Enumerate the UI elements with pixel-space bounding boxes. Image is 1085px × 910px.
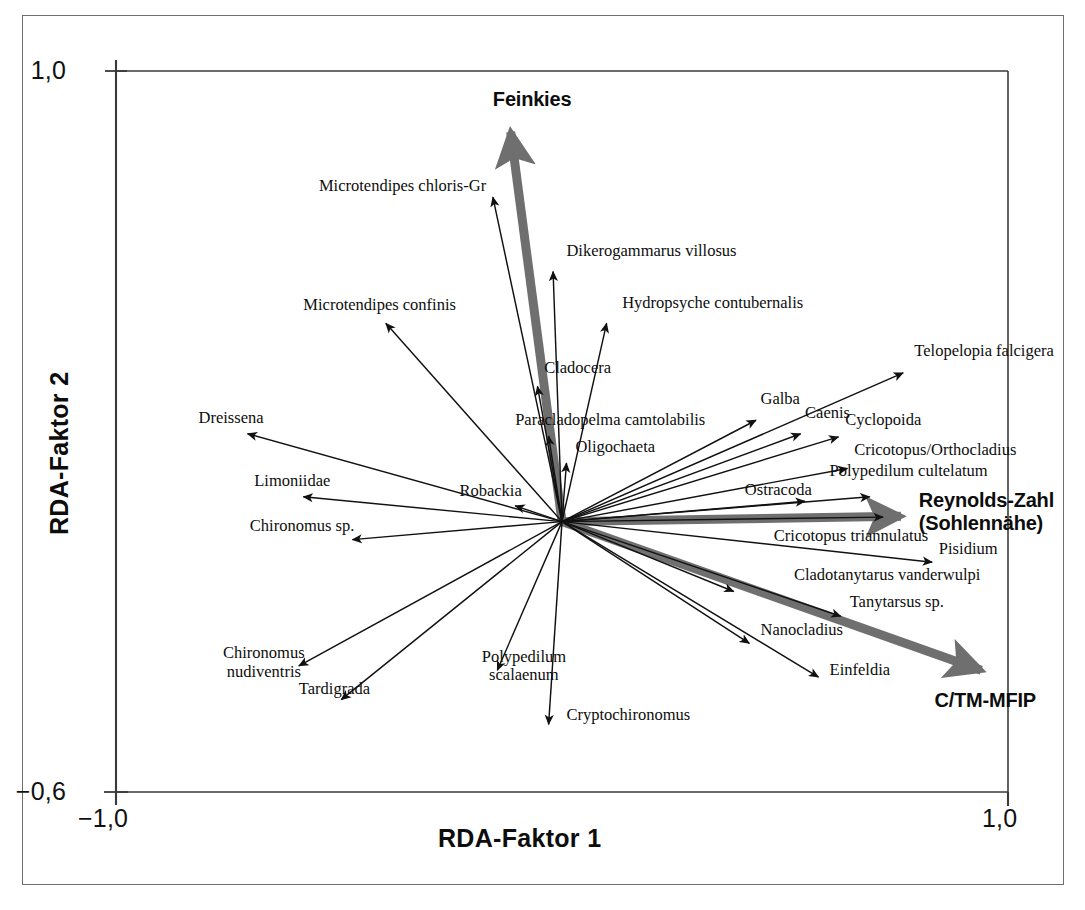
species-label-hydropsyche-contubernalis: Hydropsyche contubernalis (622, 294, 803, 312)
species-label-telopelopia-falcigera: Telopelopia falcigera (914, 342, 1053, 360)
species-vector-cladotanytarus-vanderwulpi (562, 522, 734, 592)
species-label-cricotopus-triannulatus: Cricotopus triannulatus (774, 527, 928, 545)
figure-page: 1,0 −0,6 −1,0 1,0 RDA-Faktor 1 RDA-Fakto… (0, 0, 1085, 910)
y-axis-title: RDA-Faktor 2 (45, 372, 74, 535)
species-label-microtendipes-chloris-gr: Microtendipes chloris-Gr (319, 177, 486, 195)
species-label-chironomus-sp: Chironomus sp. (250, 517, 355, 535)
env-label-c-tm-mfip: C/TM-MFIP (934, 689, 1036, 712)
species-label-chironomus-nudiventris: Chironomus nudiventris (223, 644, 305, 681)
species-label-robackia: Robackia (459, 482, 521, 500)
species-label-caenis: Caenis (805, 404, 850, 422)
species-label-nanocladius: Nanocladius (760, 621, 842, 639)
species-label-limoniidae: Limoniidae (254, 472, 330, 490)
species-label-polypedilum-scalaenum: Polypedilum scalaenum (482, 648, 566, 685)
species-label-tardigrada: Tardigrada (299, 680, 370, 698)
species-vector-chironomus-sp (352, 522, 562, 540)
species-vector-cryptochironomus (549, 522, 562, 725)
species-label-paracladopelma-camtolabilis: Paracladopelma camtolabilis (515, 411, 705, 429)
species-label-einfeldia: Einfeldia (830, 661, 890, 679)
plot-axis-box (104, 60, 1008, 806)
species-label-ostracoda: Ostracoda (745, 481, 812, 499)
y-axis-min-tick-label: −0,6 (16, 777, 66, 806)
x-axis-min-tick-label: −1,0 (78, 804, 128, 833)
species-label-cryptochironomus: Cryptochironomus (566, 706, 690, 724)
x-axis-title: RDA-Faktor 1 (438, 824, 601, 853)
species-label-microtendipes-confinis: Microtendipes confinis (303, 296, 456, 314)
species-label-tanytarsus-sp: Tanytarsus sp. (850, 593, 944, 611)
species-label-galba: Galba (760, 390, 799, 408)
species-label-cyclopoida: Cyclopoida (845, 411, 921, 429)
env-vector-feinkies (511, 132, 562, 522)
env-label-reynolds-zahl: Reynolds-Zahl (Sohlennähe) (919, 489, 1054, 535)
species-label-dreissena: Dreissena (199, 409, 264, 427)
species-label-cladocera: Cladocera (544, 359, 611, 377)
env-label-feinkies: Feinkies (493, 88, 571, 111)
species-label-oligochaeta: Oligochaeta (575, 438, 655, 456)
species-label-polypedilum-cultelatum: Polypedilum cultelatum (830, 462, 988, 480)
y-axis-max-tick-label: 1,0 (31, 56, 66, 85)
species-vector-chironomus-nudiventris (299, 522, 562, 666)
species-label-cladotanytarus-vanderwulpi: Cladotanytarus vanderwulpi (794, 566, 981, 584)
species-label-pisidium: Pisidium (939, 540, 998, 558)
species-label-dikerogammarus-villosus: Dikerogammarus villosus (566, 242, 736, 260)
x-axis-max-tick-label: 1,0 (982, 804, 1017, 833)
species-label-cricotopus-orthocladius: Cricotopus/Orthocladius (854, 441, 1016, 459)
